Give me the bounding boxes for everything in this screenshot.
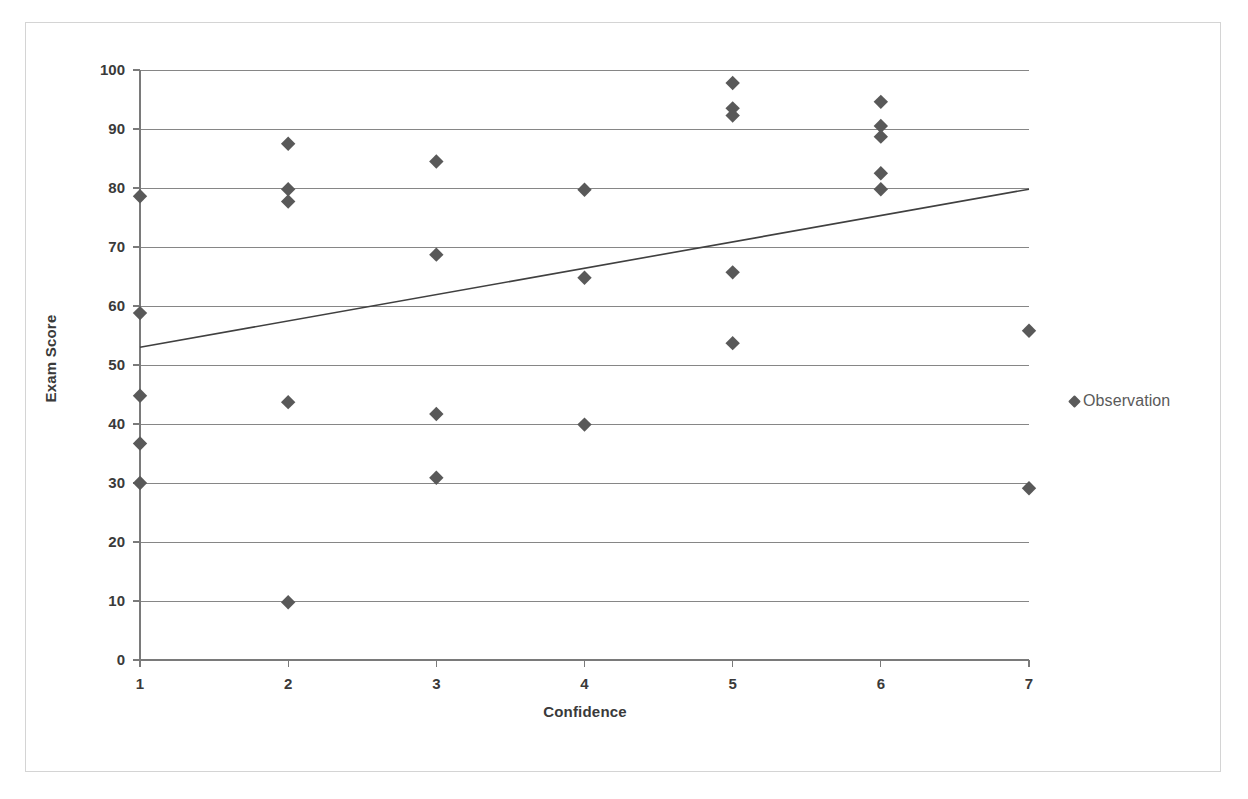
gridlines-group: [140, 70, 1029, 660]
y-axis-tick-label: 50: [81, 356, 125, 373]
scatter-plot-canvas: [0, 0, 1248, 799]
y-axis-tick-label: 20: [81, 533, 125, 550]
x-axis-tick-label: 5: [713, 675, 753, 692]
chart-legend: Observation: [1068, 392, 1170, 410]
x-axis-tick-label: 6: [861, 675, 901, 692]
trendline: [140, 189, 1029, 347]
y-axis-tick-label: 10: [81, 592, 125, 609]
y-axis-tick-label: 100: [81, 61, 125, 78]
y-axis-tick-label: 60: [81, 297, 125, 314]
y-axis-tick-label: 80: [81, 179, 125, 196]
data-points-group: [133, 76, 1036, 610]
y-axis-tick-label: 40: [81, 415, 125, 432]
x-axis-tick-label: 4: [565, 675, 605, 692]
x-axis-tick-label: 3: [416, 675, 456, 692]
y-axis-tick-label: 30: [81, 474, 125, 491]
legend-entry-label: Observation: [1083, 392, 1170, 410]
x-axis-tick-label: 2: [268, 675, 308, 692]
x-axis-tick-label: 1: [120, 675, 160, 692]
y-axis-tick-label: 70: [81, 238, 125, 255]
x-axis-title: Confidence: [0, 703, 1170, 720]
tick-marks-group: [133, 70, 1029, 667]
y-axis-tick-label: 90: [81, 120, 125, 137]
y-axis-tick-label: 0: [81, 651, 125, 668]
x-axis-tick-label: 7: [1009, 675, 1049, 692]
y-axis-title: Exam Score: [42, 289, 59, 429]
legend-diamond-icon: [1068, 395, 1081, 408]
